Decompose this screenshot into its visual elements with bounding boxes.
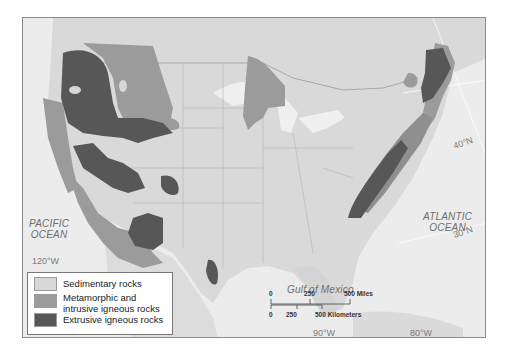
scale-km-0: 0 (269, 311, 273, 318)
lon-90-label: 90°W (313, 328, 335, 338)
lon-80-label: 80°W (410, 328, 432, 338)
legend-label-extrusive: Extrusive igneous rocks (63, 315, 163, 326)
legend-item-extrusive (34, 313, 57, 327)
pacific-ocean-label: PACIFIC OCEAN (29, 218, 69, 240)
legend-label-sedimentary: Sedimentary rocks (63, 279, 142, 290)
scale-km-500: 500 Kilometers (315, 311, 361, 318)
legend-item-sedimentary (34, 277, 57, 291)
legend-label-metamorphic: Metamorphic and intrusive igneous rocks (63, 293, 160, 314)
scale-km-250: 250 (286, 311, 297, 318)
extrusive-swatch (34, 313, 57, 327)
scale-bar: 0 250 500 Miles 0 250 500 Kilometers (270, 292, 390, 326)
sedimentary-swatch (34, 277, 57, 291)
metamorphic-swatch (34, 294, 57, 308)
scale-miles-250: 250 (304, 290, 315, 297)
legend-item-metamorphic (34, 294, 57, 308)
legend: Sedimentary rocks Metamorphic and intrus… (27, 272, 173, 335)
scale-miles-500: 500 Miles (344, 290, 373, 297)
scale-miles-0: 0 (269, 290, 273, 297)
lon-120-label: 120°W (32, 256, 59, 266)
